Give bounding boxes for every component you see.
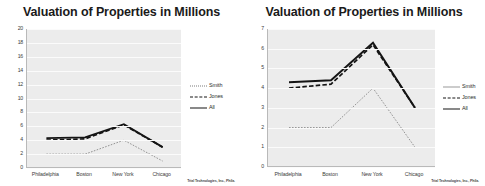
series-line-jones <box>289 45 415 108</box>
gridline <box>27 154 181 155</box>
gridline <box>268 68 435 69</box>
y-axis-labels: 02468101214161820 <box>3 29 25 168</box>
credit-line: Trial Technologies, Inc., Phila. <box>187 179 235 183</box>
legend-label: All <box>462 106 468 111</box>
legend-swatch-icon <box>443 84 460 90</box>
y-axis-tick-label: 10 <box>18 96 23 101</box>
y-axis-tick-label: 2 <box>261 125 264 130</box>
y-axis-tick-label: 8 <box>20 110 23 115</box>
gridline <box>268 88 435 89</box>
y-axis-tick-label: 5 <box>261 66 264 71</box>
legend-label: Jones <box>209 94 223 99</box>
y-axis-tick-label: 20 <box>18 26 23 31</box>
x-axis-tick-label: Philadelphia <box>274 171 301 177</box>
chart-legend: SmithJonesAll <box>443 81 476 114</box>
gridline <box>268 128 435 129</box>
gridline <box>27 29 181 30</box>
legend-item-all: All <box>190 102 223 113</box>
y-axis-tick-label: 3 <box>261 105 264 110</box>
gridline <box>27 126 181 127</box>
x-axis-tick-label: Chicago <box>405 171 423 177</box>
x-axis-tick-label: Philadelphia <box>32 171 59 177</box>
credit-line: Trial Technologies, Inc., Phila. <box>431 179 479 183</box>
gridline <box>268 49 435 50</box>
legend-item-all: All <box>443 103 476 114</box>
y-axis-tick-label: 4 <box>20 138 23 143</box>
y-axis-tick-label: 18 <box>18 40 23 45</box>
legend-label: Smith <box>462 84 475 89</box>
gridline <box>27 112 181 113</box>
gridline <box>27 168 181 169</box>
x-axis-tick-label: Chicago <box>152 171 170 177</box>
chart-legend: SmithJonesAll <box>190 80 223 113</box>
y-axis-tick-label: 4 <box>261 86 264 91</box>
x-axis-tick-label: Boston <box>76 171 92 177</box>
y-axis-tick-label: 6 <box>20 124 23 129</box>
gridline <box>27 99 181 100</box>
y-axis-tick-label: 16 <box>18 54 23 59</box>
legend-swatch-icon <box>443 106 460 112</box>
legend-label: Jones <box>462 95 476 100</box>
gridline <box>27 43 181 44</box>
y-axis-tick-label: 7 <box>261 26 264 31</box>
chart-panel-left: Valuation of Properties in Millions 0246… <box>0 0 243 186</box>
legend-swatch-icon <box>190 83 207 89</box>
legend-item-jones: Jones <box>443 92 476 103</box>
series-line-all <box>289 43 415 108</box>
gridline <box>268 29 435 30</box>
y-axis-tick-label: 6 <box>261 46 264 51</box>
legend-label: All <box>209 105 215 110</box>
plot-background <box>26 29 181 168</box>
gridline <box>27 57 181 58</box>
series-line-smith <box>289 88 415 147</box>
legend-item-jones: Jones <box>190 91 223 102</box>
y-axis-tick-label: 1 <box>261 145 264 150</box>
gridline <box>268 147 435 148</box>
page-title: Valuation of Properties in Millions <box>0 0 243 19</box>
y-axis-labels: 01234567 <box>244 29 266 167</box>
legend-item-smith: Smith <box>443 81 476 92</box>
y-axis-tick-label: 2 <box>20 151 23 156</box>
legend-swatch-icon <box>443 95 460 101</box>
legend-item-smith: Smith <box>190 80 223 91</box>
legend-swatch-icon <box>190 94 207 100</box>
x-axis-tick-label: New York <box>361 171 382 177</box>
y-axis-tick-label: 0 <box>261 164 264 169</box>
legend-label: Smith <box>209 83 222 88</box>
y-axis-tick-label: 12 <box>18 82 23 87</box>
legend-swatch-icon <box>190 105 207 111</box>
y-axis-tick-label: 14 <box>18 68 23 73</box>
gridline <box>268 108 435 109</box>
gridline <box>27 140 181 141</box>
chart-panel-right: Valuation of Properties in Millions 0123… <box>243 0 485 186</box>
x-axis-tick-label: Boston <box>322 171 338 177</box>
chart-pair: Valuation of Properties in Millions 0246… <box>0 0 485 186</box>
series-line-all <box>46 124 162 147</box>
plot-background <box>267 29 435 167</box>
x-axis-tick-label: New York <box>112 171 133 177</box>
gridline <box>27 71 181 72</box>
page-title: Valuation of Properties in Millions <box>243 0 485 19</box>
y-axis-tick-label: 0 <box>20 165 23 170</box>
gridline <box>27 85 181 86</box>
gridline <box>268 167 435 168</box>
series-line-smith <box>46 140 162 161</box>
